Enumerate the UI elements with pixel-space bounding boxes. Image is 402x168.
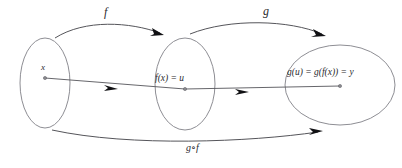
function-composition-diagram: f g g∘f x f(x) = u g(u) = g(f(x)) = y [0, 0, 402, 168]
element-map-g-line [185, 86, 340, 89]
f-arrow-curve [55, 24, 160, 38]
diagram-canvas [0, 0, 402, 168]
composition-arrow-head-icon [309, 128, 323, 135]
element-map-g-head-icon [235, 89, 249, 95]
domain-set-ellipse [20, 38, 70, 128]
composition-arrow-curve [52, 130, 318, 141]
composition-map-label: g∘f [186, 143, 199, 153]
f-arrow-head-icon [150, 28, 164, 36]
point-x-dot [43, 76, 46, 79]
g-arrow-curve [190, 23, 322, 34]
point-y-dot [338, 84, 341, 87]
domain-element-label: x [41, 63, 45, 72]
intermediate-set-ellipse [155, 38, 215, 130]
codomain-element-label: g(u) = g(f(x)) = y [287, 68, 354, 78]
f-map-label: f [104, 6, 107, 18]
intermediate-element-label: f(x) = u [155, 74, 184, 84]
element-map-f-head-icon [104, 85, 118, 91]
g-map-label: g [263, 5, 269, 17]
point-u-dot [183, 87, 186, 90]
